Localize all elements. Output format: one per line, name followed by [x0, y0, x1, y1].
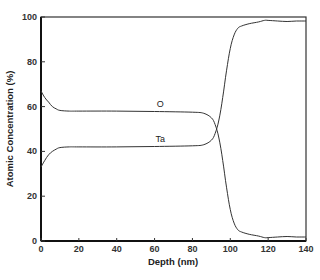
x-tick-label: 20: [74, 244, 84, 254]
plot-frame: [41, 17, 306, 241]
x-tick-label: 120: [261, 244, 276, 254]
series-line-ta: [41, 20, 306, 167]
y-tick-label: 0: [32, 236, 37, 246]
x-axis-label: Depth (nm): [148, 256, 198, 267]
x-tick-label: 140: [298, 244, 313, 254]
series-line-o: [41, 91, 306, 238]
x-tick-label: 40: [112, 244, 122, 254]
x-tick-label: 60: [150, 244, 160, 254]
series-lines: [41, 20, 306, 238]
x-tick-label: 80: [187, 244, 197, 254]
x-tick-label: 100: [223, 244, 238, 254]
series-label-ta: Ta: [155, 134, 165, 144]
series-label-o: O: [157, 99, 164, 109]
y-axis-label: Atomic Concentration (%): [4, 71, 15, 188]
plot-border: [41, 17, 306, 241]
x-tick-label: 0: [38, 244, 43, 254]
y-tick-label: 40: [27, 146, 37, 156]
series-labels: OTa: [155, 99, 165, 145]
y-tick-label: 80: [27, 57, 37, 67]
y-tick-label: 60: [27, 102, 37, 112]
y-tick-label: 20: [27, 191, 37, 201]
y-tick-label: 100: [22, 12, 37, 22]
depth-profile-chart: 020406080100120140 020406080100 OTa Dept…: [0, 0, 320, 280]
